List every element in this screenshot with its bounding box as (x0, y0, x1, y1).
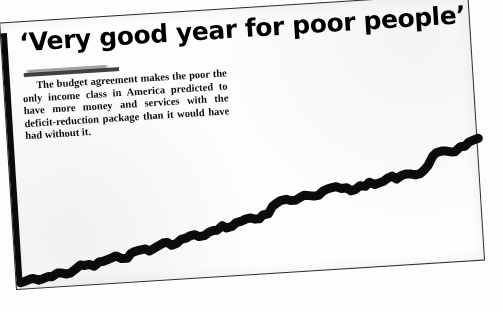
scanned-page: ‘Very good year for poor people’ The bud… (0, 0, 503, 312)
line-chart-svg (12, 112, 486, 289)
newspaper-clipping: ‘Very good year for poor people’ The bud… (0, 0, 485, 290)
chart-series-line (13, 138, 485, 283)
page-title: ‘Very good year for poor people’ (19, 1, 460, 59)
line-chart (12, 112, 486, 289)
